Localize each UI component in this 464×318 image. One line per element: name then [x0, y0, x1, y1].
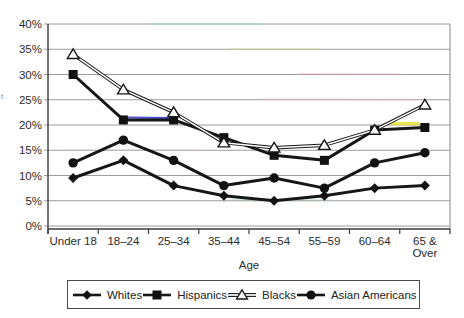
marker-circle	[269, 173, 278, 182]
x-axis-tick-label: Under 18	[49, 235, 96, 247]
marker-triangle	[419, 99, 431, 109]
y-axis-tick-label: 30%	[19, 69, 42, 81]
marker-diamond	[68, 173, 78, 183]
marker-circle	[119, 135, 128, 144]
legend-item-hispanics: Hispanics	[142, 288, 227, 302]
scan-artifact	[128, 118, 172, 119]
marker-diamond	[420, 181, 430, 191]
legend-label: Blacks	[262, 289, 296, 301]
marker-diamond	[169, 181, 179, 191]
legend-item-asian-americans: Asian Americans	[296, 288, 417, 302]
marker-diamond	[269, 196, 279, 206]
marker-circle	[370, 158, 379, 167]
legend-item-whites: Whites	[72, 288, 142, 302]
y-axis-tick-label: 5%	[25, 195, 42, 207]
marker-circle	[420, 148, 429, 157]
y-axis-title-fragment: t	[1, 92, 3, 101]
y-axis-tick-label: 20%	[19, 119, 42, 131]
marker-circle	[169, 156, 178, 165]
legend-label: Asian Americans	[331, 289, 417, 301]
x-axis-tick-label: 45–54	[258, 235, 291, 247]
marker-circle	[219, 181, 228, 190]
y-axis-tick-label: 10%	[19, 170, 42, 182]
marker-square	[119, 115, 128, 124]
legend-circle-icon	[296, 288, 326, 302]
marker-diamond	[219, 191, 229, 201]
y-axis-tick-label: 40%	[19, 18, 42, 30]
y-axis-tick-label: 0%	[25, 220, 42, 232]
legend-label: Hispanics	[177, 289, 227, 301]
legend-label: Whites	[107, 289, 142, 301]
marker-square	[69, 70, 78, 79]
legend-diamond-icon	[72, 288, 102, 302]
x-axis-tick-label: 55–59	[308, 235, 340, 247]
marker-square	[320, 156, 329, 165]
chart-page: 0%5%10%15%20%25%30%35%40%Under 1818–2425…	[0, 0, 464, 318]
chart-legend: WhitesHispanicsBlacksAsian Americans	[67, 280, 420, 309]
legend-item-blacks: Blacks	[227, 288, 296, 302]
legend-square-icon	[142, 288, 172, 302]
marker-triangle	[67, 49, 79, 59]
marker-circle	[68, 158, 77, 167]
marker-diamond	[370, 183, 380, 193]
line-chart: 0%5%10%15%20%25%30%35%40%Under 1818–2425…	[0, 0, 464, 280]
x-axis-tick-label: 65 &Over	[412, 235, 437, 259]
x-axis-title: Age	[239, 259, 259, 271]
marker-square	[420, 123, 429, 132]
x-axis-tick-label: 35–44	[208, 235, 241, 247]
y-axis-tick-label: 25%	[19, 94, 42, 106]
y-axis-tick-label: 15%	[19, 144, 42, 156]
marker-diamond	[118, 155, 128, 165]
y-axis-tick-label: 35%	[19, 43, 42, 55]
x-axis-tick-label: 60–64	[359, 235, 392, 247]
x-axis-tick-label: 25–34	[158, 235, 191, 247]
legend-triangle-open-icon	[227, 288, 257, 302]
x-axis-tick-label: 18–24	[107, 235, 140, 247]
